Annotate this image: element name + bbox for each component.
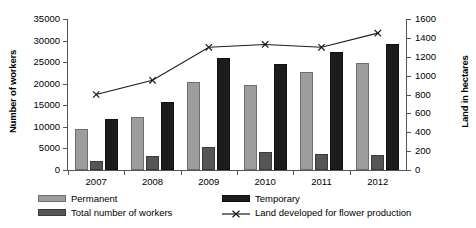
legend-item-land: Land developed for flower production (222, 207, 462, 218)
legend-label-total: Total number of workers (71, 207, 172, 218)
plot-area (68, 19, 406, 170)
legend-label-permanent: Permanent (71, 193, 117, 204)
y-tick-label-left: 30000 (20, 36, 60, 46)
y-tick-label-left: 25000 (20, 57, 60, 67)
legend-row-2: Total number of workers Land developed f… (38, 205, 468, 219)
y-axis-title-right: Land in hectares (459, 32, 470, 152)
y-tick-label-right: 600 (415, 108, 455, 118)
x-tick-label: 2009 (181, 176, 237, 187)
bar-group (300, 19, 343, 170)
y-tick-label-right: 1200 (415, 52, 455, 62)
y-tick-label-right: 1400 (415, 33, 455, 43)
y-tick-label-right: 1600 (415, 14, 455, 24)
land-developed-line-series (68, 19, 406, 170)
legend-item-permanent: Permanent (38, 193, 222, 204)
bar-temporary (217, 58, 230, 170)
bar-permanent (300, 72, 313, 170)
bar-total (146, 156, 159, 170)
bar-temporary (105, 119, 118, 170)
x-tick-mark (124, 170, 125, 175)
bar-permanent (75, 129, 88, 170)
bar-group (356, 19, 399, 170)
x-tick-label: 2007 (68, 176, 124, 187)
y-tick-label-right: 200 (415, 146, 455, 156)
y-tick-label-left: 15000 (20, 100, 60, 110)
bar-group (187, 19, 230, 170)
legend-swatch-total (38, 209, 66, 216)
legend-item-temporary: Temporary (222, 193, 462, 204)
y-tick-label-right: 800 (415, 90, 455, 100)
bar-temporary (274, 64, 287, 170)
bar-temporary (161, 102, 174, 170)
y-tick-label-left: 20000 (20, 79, 60, 89)
bar-permanent (187, 82, 200, 170)
y-tick-label-left: 0 (20, 165, 60, 175)
bar-group (244, 19, 287, 170)
bar-group (75, 19, 118, 170)
line-marker-icon (222, 209, 250, 219)
legend-label-land: Land developed for flower production (255, 207, 411, 218)
bar-total (90, 161, 103, 170)
chart-legend: Permanent Temporary Total number of work… (38, 191, 468, 219)
y-tick-label-right: 400 (415, 127, 455, 137)
legend-swatch-temporary (222, 195, 250, 202)
x-tick-label: 2008 (125, 176, 181, 187)
x-tick-mark (237, 170, 238, 175)
x-tick-mark (68, 170, 69, 175)
y-axis-title-left: Number of workers (7, 32, 18, 152)
bar-permanent (356, 63, 369, 170)
bar-group (131, 19, 174, 170)
x-tick-mark (181, 170, 182, 175)
bar-temporary (330, 52, 343, 170)
chart-container: Number of workers Land in hectares 05000… (0, 0, 476, 228)
y-tick-label-left: 10000 (20, 122, 60, 132)
y-tick-label-left: 35000 (20, 14, 60, 24)
x-tick-label: 2011 (294, 176, 350, 187)
bar-total (371, 155, 384, 170)
bar-permanent (131, 117, 144, 170)
bar-total (259, 152, 272, 170)
legend-item-total: Total number of workers (38, 207, 222, 218)
y-tick-label-left: 5000 (20, 143, 60, 153)
x-tick-mark (350, 170, 351, 175)
legend-row-1: Permanent Temporary (38, 191, 468, 205)
legend-swatch-permanent (38, 195, 66, 202)
legend-label-temporary: Temporary (255, 193, 300, 204)
bar-total (202, 147, 215, 170)
bar-permanent (244, 85, 257, 170)
x-tick-mark (293, 170, 294, 175)
bar-temporary (386, 44, 399, 170)
y-tick-label-right: 0 (415, 165, 455, 175)
bar-total (315, 154, 328, 170)
y-axis-right-line (406, 19, 407, 171)
legend-swatch-land-line (222, 209, 250, 216)
x-tick-label: 2010 (237, 176, 293, 187)
x-tick-label: 2012 (350, 176, 406, 187)
y-tick-label-right: 1000 (415, 71, 455, 81)
